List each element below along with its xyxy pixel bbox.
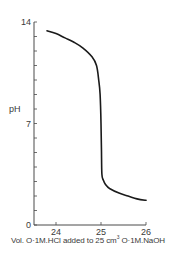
y-tick-label: 0 bbox=[26, 220, 31, 230]
x-axis-caption-prefix: Vol. O·1M.HCl added to 25 cm bbox=[11, 236, 117, 245]
x-axis-caption-suffix: O·1M.NaOH bbox=[119, 236, 165, 245]
y-axis-label: pH bbox=[9, 104, 21, 114]
titration-curve bbox=[47, 31, 146, 201]
y-axis: 0714 bbox=[21, 17, 37, 230]
y-tick-label: 14 bbox=[21, 17, 31, 27]
titration-chart: 0714 242526 pH bbox=[0, 0, 176, 253]
x-axis: 242526 bbox=[34, 222, 151, 237]
y-tick-label: 7 bbox=[26, 119, 31, 129]
x-axis-caption: Vol. O·1M.HCl added to 25 cm3 O·1M.NaOH bbox=[0, 236, 176, 245]
